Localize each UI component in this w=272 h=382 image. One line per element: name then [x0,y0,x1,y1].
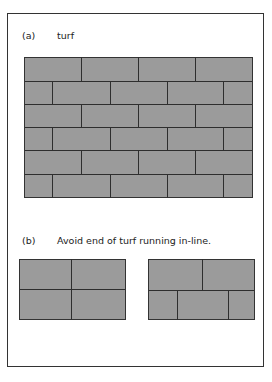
part-a-title: turf [57,30,74,41]
staggered-joints-example [148,259,255,320]
inline-joints-example [19,259,126,320]
turf-end-joint-line [195,57,196,81]
turf-end-joint-line [71,259,72,289]
turf-end-joint-line [110,81,111,104]
turf-laying-pattern-grid [24,57,253,198]
row-joint-line [25,81,252,82]
turf-end-joint-line [52,81,53,104]
turf-end-joint-line [195,104,196,127]
row-joint-line [25,127,252,128]
part-b-caption: Avoid end of turf running in-line. [57,235,211,246]
turf-end-joint-line [223,81,224,104]
turf-end-joint-line [81,150,82,174]
turf-end-joint-line [223,174,224,198]
turf-end-joint-line [71,289,72,320]
row-joint-line [25,174,252,175]
turf-end-joint-line [138,57,139,81]
turf-end-joint-line [52,174,53,198]
turf-end-joint-line [52,127,53,150]
turf-end-joint-line [202,259,203,290]
turf-end-joint-line [167,174,168,198]
turf-end-joint-line [228,290,229,320]
turf-end-joint-line [223,127,224,150]
turf-end-joint-line [110,127,111,150]
part-b-marker: (b) [22,235,35,246]
turf-end-joint-line [167,81,168,104]
row-joint-line [20,289,125,290]
turf-end-joint-line [167,127,168,150]
turf-end-joint-line [81,57,82,81]
turf-end-joint-line [138,150,139,174]
turf-end-joint-line [138,104,139,127]
part-a-marker: (a) [22,30,35,41]
turf-end-joint-line [195,150,196,174]
turf-end-joint-line [110,174,111,198]
turf-end-joint-line [177,290,178,320]
row-joint-line [149,290,254,291]
turf-end-joint-line [81,104,82,127]
